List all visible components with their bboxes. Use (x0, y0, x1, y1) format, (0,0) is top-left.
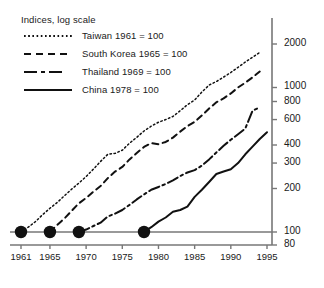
chart-container: Indices, log scale Taiwan 1961 = 100 Sou… (0, 0, 324, 288)
series-line-thailand (79, 107, 260, 232)
series-line-taiwan (21, 52, 260, 232)
x-axis-tick-label: 1970 (66, 251, 106, 262)
y-axis-tick-label: 80 (284, 238, 295, 249)
y-axis-tick-label: 300 (284, 156, 301, 167)
y-axis-tick-label: 1000 (284, 80, 306, 91)
series-line-china (144, 132, 267, 232)
y-axis-tick-label: 100 (284, 225, 301, 236)
start-marker-south-korea (44, 226, 56, 238)
y-axis-tick-label: 800 (284, 95, 301, 106)
axes-layer (10, 18, 277, 249)
x-axis-tick-label: 1975 (102, 251, 142, 262)
series-line-south-korea (50, 72, 260, 232)
plot-area (0, 0, 324, 288)
start-marker-thailand (73, 226, 85, 238)
y-axis-tick-label: 600 (284, 113, 301, 124)
start-marker-taiwan (15, 226, 27, 238)
x-axis-tick-label: 1980 (138, 251, 178, 262)
x-axis-tick-label: 1985 (175, 251, 215, 262)
y-axis-tick-label: 400 (284, 138, 301, 149)
x-axis-tick-label: 1995 (247, 251, 287, 262)
y-axis-tick-label: 200 (284, 182, 301, 193)
start-marker-china (138, 226, 150, 238)
x-axis-tick-label: 1990 (211, 251, 251, 262)
y-axis-tick-label: 2000 (284, 37, 306, 48)
x-axis-tick-label: 1965 (30, 251, 70, 262)
series-layer (21, 52, 267, 232)
